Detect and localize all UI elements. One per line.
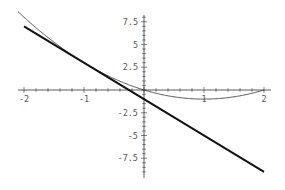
parabola-curve bbox=[18, 12, 264, 99]
y-tick-label: 2.5 bbox=[123, 62, 138, 72]
x-axis: -2-112 bbox=[18, 87, 271, 104]
x-tick-label: -1 bbox=[79, 94, 89, 104]
x-tick-label: -2 bbox=[19, 94, 29, 104]
y-tick-label: -2.5 bbox=[118, 108, 138, 118]
y-axis: 7.552.5-2.5-5-7.5 bbox=[118, 15, 147, 178]
y-tick-label: -5 bbox=[128, 131, 138, 141]
y-tick-label: 5 bbox=[133, 40, 138, 50]
y-tick-label: -7.5 bbox=[118, 153, 138, 163]
function-plot: -2-112 7.552.5-2.5-5-7.5 bbox=[0, 0, 285, 190]
y-tick-label: 7.5 bbox=[123, 17, 138, 27]
x-tick-label: 2 bbox=[261, 94, 266, 104]
curves bbox=[18, 12, 264, 172]
